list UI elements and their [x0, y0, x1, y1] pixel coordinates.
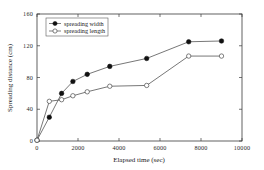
series-layer: [35, 39, 224, 143]
x-tick-label-0: 0: [35, 144, 38, 151]
x-tick-label-2000: 2000: [71, 144, 84, 151]
data-point: [35, 138, 39, 142]
legend-marker-open-circle-icon: [53, 29, 57, 33]
data-point: [219, 54, 223, 58]
series-line: [37, 56, 222, 140]
data-point: [144, 56, 149, 61]
legend-label-spreading-length: spreading length: [64, 27, 106, 34]
x-axis-title: Elapsed time (sec): [113, 156, 165, 164]
y-tick-label-120: 120: [23, 42, 33, 49]
data-point: [85, 90, 89, 94]
y-axis-title: Spreading distance (cm): [6, 43, 14, 112]
y-tick-label-0: 0: [30, 137, 33, 144]
data-point: [59, 91, 64, 96]
data-point: [71, 79, 76, 84]
y-tick-label-80: 80: [26, 74, 33, 81]
data-point: [47, 99, 51, 103]
data-point: [108, 84, 112, 88]
x-tick-label-8000: 8000: [194, 144, 207, 151]
data-point: [107, 64, 112, 69]
legend-label-spreading-width: spreading width: [64, 20, 105, 27]
data-point: [219, 39, 224, 44]
line-chart: 0200040006000800010000 04080120160 Elaps…: [0, 0, 264, 170]
data-point: [186, 39, 191, 44]
x-axis-tick-labels: 0200040006000800010000: [35, 144, 250, 151]
legend-marker-filled-circle-icon: [53, 21, 57, 25]
y-axis-tick-labels: 04080120160: [23, 10, 33, 144]
data-point: [144, 83, 148, 87]
x-tick-label-10000: 10000: [234, 144, 250, 151]
data-point: [187, 54, 191, 58]
x-tick-label-6000: 6000: [153, 144, 166, 151]
chart-figure: 0200040006000800010000 04080120160 Elaps…: [0, 0, 264, 170]
chart-legend: spreading width spreading length: [46, 18, 108, 36]
data-point: [47, 115, 52, 120]
data-point: [71, 94, 75, 98]
series-spreading-length: [35, 54, 224, 143]
data-point: [85, 72, 90, 77]
y-tick-label-160: 160: [23, 10, 33, 17]
x-tick-label-4000: 4000: [112, 144, 125, 151]
data-point: [59, 98, 63, 102]
series-spreading-width: [35, 39, 224, 143]
y-tick-label-40: 40: [26, 105, 33, 112]
